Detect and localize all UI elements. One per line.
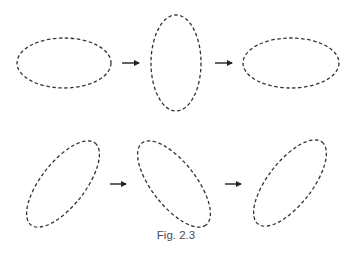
dashed-ellipse-1-2 [151,15,201,111]
top-row [17,15,339,111]
dashed-ellipse-2-2 [125,129,224,238]
dashed-ellipse-1-3 [243,38,339,88]
bottom-row [14,128,340,238]
figure-caption: Fig. 2.3 [0,229,352,241]
dashed-ellipse-2-1 [14,129,113,238]
dashed-ellipse-2-3 [241,128,340,237]
dashed-ellipse-1-1 [17,38,111,88]
figure-diagram [0,0,352,261]
